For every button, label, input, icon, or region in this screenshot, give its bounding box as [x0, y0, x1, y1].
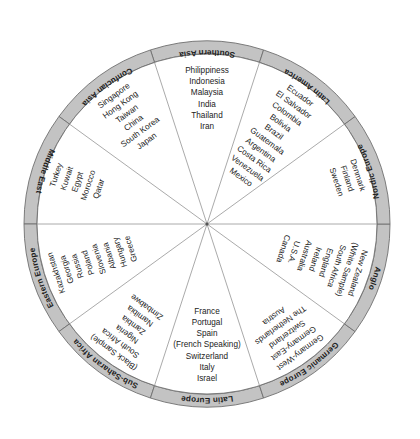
- country-label: India: [198, 100, 216, 109]
- cultural-clusters-figure: Southern AsiaConfucian AsiaMiddle EastEa…: [0, 0, 420, 439]
- country-label: Thailand: [191, 111, 223, 120]
- country-label: Malaysia: [191, 88, 224, 97]
- country-label: (French Speaking): [173, 340, 241, 349]
- country-label: Portugal: [192, 318, 223, 327]
- country-label: Iran: [200, 122, 215, 131]
- country-label: France: [194, 307, 220, 316]
- country-label: Switzerland: [186, 352, 229, 361]
- country-label: Spain: [197, 329, 218, 338]
- country-label: Israel: [197, 374, 217, 383]
- country-label: Italy: [199, 363, 215, 372]
- wheel-center-hub: [205, 222, 208, 225]
- cluster-wheel-svg: Southern AsiaConfucian AsiaMiddle EastEa…: [0, 0, 420, 439]
- country-label: Philippiness: [185, 66, 229, 75]
- country-label: Indonesia: [189, 77, 225, 86]
